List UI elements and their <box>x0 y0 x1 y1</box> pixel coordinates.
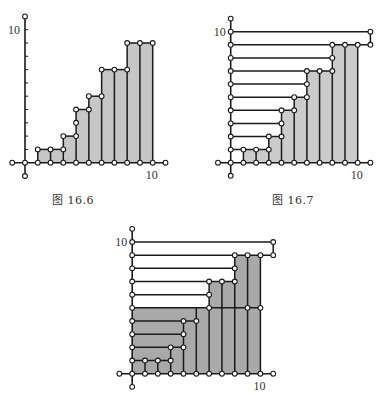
lattice-point <box>130 332 135 337</box>
x-axis-label-10: 10 <box>253 379 265 393</box>
lattice-point <box>245 371 250 376</box>
lattice-point <box>245 253 250 258</box>
lattice-point <box>207 305 212 310</box>
lattice-point <box>220 371 225 376</box>
lattice-point <box>194 319 199 324</box>
lattice-point <box>130 384 135 389</box>
lattice-point <box>168 358 173 363</box>
lattice-point <box>271 240 276 245</box>
lattice-point <box>168 345 173 350</box>
lattice-point <box>130 279 135 284</box>
lattice-point <box>130 345 135 350</box>
y-axis-label-10: 10 <box>115 235 127 249</box>
lattice-point <box>232 371 237 376</box>
lattice-point <box>130 319 135 324</box>
lattice-point <box>130 305 135 310</box>
lattice-point <box>130 240 135 245</box>
lattice-point <box>207 371 212 376</box>
lattice-point <box>181 371 186 376</box>
figure-16-8: 1010 <box>0 0 377 399</box>
lattice-point <box>117 371 122 376</box>
lattice-point <box>168 371 173 376</box>
lattice-point <box>181 319 186 324</box>
lattice-point <box>271 371 276 376</box>
lattice-point <box>207 292 212 297</box>
lattice-point <box>271 253 276 258</box>
lattice-point <box>232 266 237 271</box>
lattice-point <box>181 345 186 350</box>
lattice-point <box>130 226 135 231</box>
lattice-point <box>130 266 135 271</box>
lattice-point <box>220 279 225 284</box>
lattice-point <box>194 371 199 376</box>
lattice-point <box>155 358 160 363</box>
lattice-point <box>181 332 186 337</box>
lattice-point <box>245 305 250 310</box>
lattice-point <box>258 305 263 310</box>
lattice-point <box>130 371 135 376</box>
lattice-point <box>258 253 263 258</box>
lattice-point <box>232 279 237 284</box>
lattice-point <box>232 253 237 258</box>
staircase-plot-16-8: 1010 <box>0 0 377 399</box>
lattice-point <box>130 253 135 258</box>
lattice-point <box>143 358 148 363</box>
lattice-point <box>155 371 160 376</box>
lattice-point <box>130 292 135 297</box>
lattice-point <box>130 358 135 363</box>
lattice-point <box>207 279 212 284</box>
lattice-point <box>258 371 263 376</box>
lattice-point <box>143 371 148 376</box>
